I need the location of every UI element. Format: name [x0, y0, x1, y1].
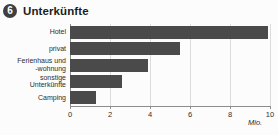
category-label: Hotel [50, 28, 66, 36]
x-axis-unit-label: Mio. [248, 118, 262, 127]
bar [70, 75, 122, 88]
bar [70, 59, 148, 72]
x-axis-tick [190, 106, 191, 109]
x-axis-tick [270, 106, 271, 109]
x-axis-tick-label: 8 [220, 110, 240, 119]
bar [70, 42, 180, 55]
bar-row [70, 26, 270, 39]
category-label: Ferienhaus und -wohnung [17, 57, 66, 72]
bar [70, 26, 268, 39]
bar-row [70, 75, 270, 88]
bar-row [70, 91, 270, 104]
bar-row [70, 42, 270, 55]
page-title: Unterkünfte [23, 5, 89, 17]
bar-row [70, 59, 270, 72]
category-label: privat [49, 45, 66, 53]
x-gridline [270, 24, 271, 106]
x-axis-tick-label: 4 [140, 110, 160, 119]
x-axis-tick [110, 106, 111, 109]
x-axis-tick-label: 2 [100, 110, 120, 119]
x-axis-tick-label: 10 [260, 110, 278, 119]
category-label: Camping [38, 94, 66, 102]
chart-header: 6 Unterkünfte [3, 2, 89, 19]
x-axis-tick [150, 106, 151, 109]
chart-figure: 6 Unterkünfte 0246810Mio.HotelprivatFeri… [0, 0, 278, 135]
x-axis-tick [230, 106, 231, 109]
x-axis-tick [70, 106, 71, 109]
x-axis-tick-label: 6 [180, 110, 200, 119]
bar [70, 91, 96, 104]
x-axis-tick-label: 0 [60, 110, 80, 119]
section-number-badge: 6 [3, 4, 17, 18]
bar-chart: 0246810Mio.HotelprivatFerienhaus und -wo… [0, 21, 278, 135]
x-axis-line [70, 106, 270, 107]
category-label: sonstige Unterkünfte [30, 74, 66, 89]
